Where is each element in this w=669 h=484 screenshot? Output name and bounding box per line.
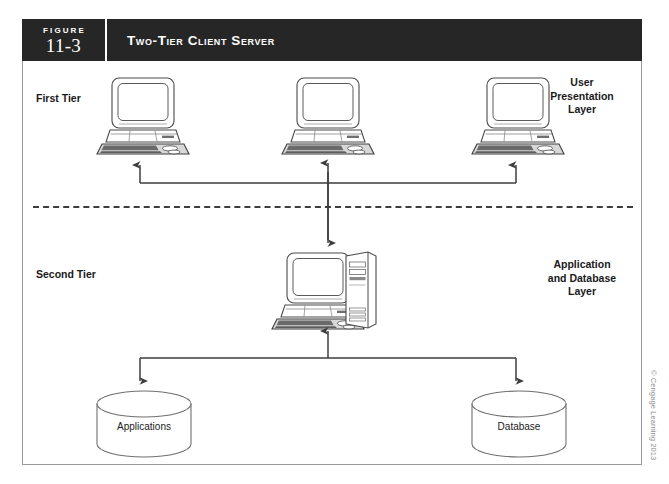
app-layer-line-1: Application <box>522 258 642 272</box>
figure-header-bar: FIGURE 11-3 Two-Tier Client Server <box>22 19 642 61</box>
figure-title: Two-Tier Client Server <box>107 19 642 61</box>
first-tier-label: First Tier <box>36 92 81 104</box>
applications-store-label: Applications <box>89 421 199 432</box>
user-presentation-layer-label: User Presentation Layer <box>522 76 642 117</box>
database-store-label: Database <box>464 421 574 432</box>
figure-number: 11-3 <box>46 36 81 56</box>
user-layer-line-1: User <box>522 76 642 90</box>
tier-divider-dashed-line <box>33 206 633 208</box>
app-layer-line-3: Layer <box>522 285 642 299</box>
user-layer-line-3: Layer <box>522 103 642 117</box>
figure-word-label: FIGURE <box>41 26 86 36</box>
application-database-layer-label: Application and Database Layer <box>522 258 642 299</box>
copyright-notice: © Cengage Learning 2013 <box>649 370 658 480</box>
second-tier-label: Second Tier <box>36 268 96 280</box>
user-layer-line-2: Presentation <box>522 90 642 104</box>
app-layer-line-2: and Database <box>522 272 642 286</box>
figure-number-block: FIGURE 11-3 <box>22 19 107 61</box>
